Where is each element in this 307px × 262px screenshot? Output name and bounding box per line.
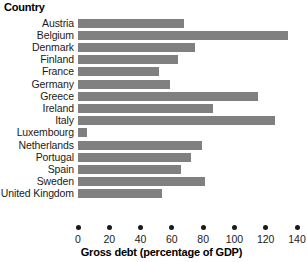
- tick-label: 120: [249, 233, 283, 245]
- x-axis-tick-labels: 020406080100120140: [0, 233, 307, 246]
- category-label: Austria: [0, 17, 74, 29]
- bar: [78, 104, 213, 113]
- x-axis-tick-marks: [0, 225, 307, 233]
- bar-row: Germany: [0, 78, 307, 90]
- tick-dot: [169, 225, 174, 230]
- bar: [78, 116, 275, 125]
- bar-row: Austria: [0, 17, 307, 29]
- tick-dot: [232, 225, 237, 230]
- bar-row: United Kingdom: [0, 188, 307, 200]
- category-label: Portugal: [0, 151, 74, 163]
- tick-label: 40: [124, 233, 158, 245]
- bar: [78, 55, 178, 64]
- bar: [78, 92, 258, 101]
- category-label: Belgium: [0, 29, 74, 41]
- bar-row: Ireland: [0, 102, 307, 114]
- tick-label: 80: [186, 233, 220, 245]
- bar-row: Italy: [0, 115, 307, 127]
- bar: [78, 177, 205, 186]
- bar: [78, 67, 159, 76]
- category-label: Greece: [0, 90, 74, 102]
- category-label: Germany: [0, 78, 74, 90]
- bar: [78, 128, 87, 137]
- bar: [78, 80, 170, 89]
- bar: [78, 141, 202, 150]
- x-axis-title: Gross debt (percentage of GDP): [0, 246, 307, 258]
- category-label: Ireland: [0, 102, 74, 114]
- category-axis-header: Country: [4, 1, 45, 13]
- category-label: Luxembourg: [0, 126, 74, 138]
- bar-chart: Country AustriaBelgiumDenmarkFinlandFran…: [0, 0, 307, 262]
- tick-dot: [295, 225, 300, 230]
- tick-label: 100: [217, 233, 251, 245]
- category-label: Spain: [0, 163, 74, 175]
- category-label: United Kingdom: [0, 187, 74, 199]
- category-label: Netherlands: [0, 139, 74, 151]
- tick-dot: [201, 225, 206, 230]
- plot-area: AustriaBelgiumDenmarkFinlandFranceGerman…: [0, 17, 307, 215]
- bar: [78, 165, 181, 174]
- bar: [78, 19, 184, 28]
- bar-row: Sweden: [0, 176, 307, 188]
- tick-dot: [76, 225, 81, 230]
- tick-dot: [138, 225, 143, 230]
- bar-row: Netherlands: [0, 139, 307, 151]
- bar-row: Belgium: [0, 29, 307, 41]
- tick-dot: [107, 225, 112, 230]
- bar-row: Denmark: [0, 41, 307, 53]
- tick-dot: [263, 225, 268, 230]
- tick-label: 60: [155, 233, 189, 245]
- category-label: Denmark: [0, 41, 74, 53]
- tick-label: 20: [92, 233, 126, 245]
- tick-label: 0: [61, 233, 95, 245]
- bar-row: Greece: [0, 90, 307, 102]
- bar: [78, 189, 162, 198]
- bar-row: Portugal: [0, 151, 307, 163]
- bar: [78, 153, 191, 162]
- category-label: Finland: [0, 53, 74, 65]
- bar-row: Spain: [0, 163, 307, 175]
- bar-row: France: [0, 66, 307, 78]
- tick-label: 140: [280, 233, 307, 245]
- bar-row: Finland: [0, 54, 307, 66]
- bar: [78, 43, 195, 52]
- category-label: Italy: [0, 114, 74, 126]
- bar: [78, 31, 288, 40]
- bar-row: Luxembourg: [0, 127, 307, 139]
- category-label: France: [0, 65, 74, 77]
- category-label: Sweden: [0, 175, 74, 187]
